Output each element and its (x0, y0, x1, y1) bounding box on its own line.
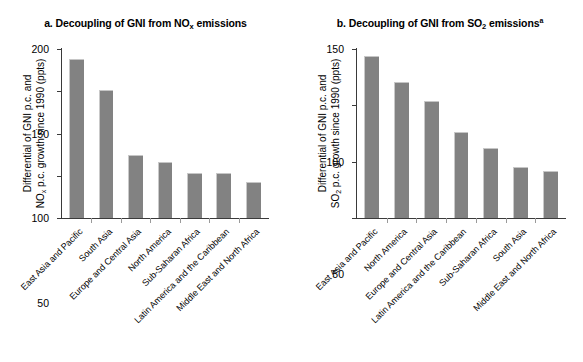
panel-b-plot-area: 050100150 (357, 49, 565, 218)
x-separator-tick (91, 218, 92, 223)
bar-slot (209, 49, 238, 218)
bar[interactable] (69, 59, 84, 218)
y-tick-label: 50 (37, 297, 49, 308)
y-tick-label: 50 (332, 269, 344, 280)
bar-slot (416, 49, 446, 218)
x-separator-tick (446, 218, 447, 223)
panel-b-title-suffix: emissions (486, 17, 539, 29)
x-category-label: North America (126, 226, 173, 273)
panel-b-bars (357, 49, 565, 218)
x-separator-tick (239, 218, 240, 223)
panel-a-y-axis-title-subscript: x (40, 190, 47, 194)
panel-b-y-axis-title: Differential of GNI p.c. and SO2 p.c. gr… (317, 49, 345, 218)
bar-slot (121, 49, 150, 218)
x-separator-tick (506, 218, 507, 223)
x-separator-tick (535, 218, 536, 223)
x-separator-tick (416, 218, 417, 223)
x-category-label: Middle East and North Africa (471, 226, 558, 313)
x-category-label: Sub-Saharan Africa (437, 226, 499, 288)
x-category-label: Europe and Central Asia (364, 226, 439, 301)
x-category-label: North America (362, 226, 409, 273)
panel-b-so2: b. Decoupling of GNI from SO2 emissionsa… (291, 0, 583, 362)
panel-a-bars (62, 49, 268, 218)
x-category-label: South Asia (491, 226, 528, 263)
panel-b-title-footnote-marker: a (539, 17, 543, 24)
y-tick-label: 100 (326, 156, 344, 167)
y-tick-label: 200 (31, 44, 49, 55)
y-tick-mark: 0 (57, 218, 62, 219)
bar[interactable] (483, 148, 498, 218)
bar[interactable] (454, 132, 469, 218)
x-separator-tick (387, 218, 388, 223)
bar-slot (62, 49, 91, 218)
x-category-label: Latin America and the Caribbean (370, 226, 469, 325)
figure-two-panel-bar-charts: a. Decoupling of GNI from NOx emissions … (0, 0, 583, 362)
bar-slot (446, 49, 476, 218)
bar-slot (239, 49, 268, 218)
panel-a-plot-area: 050100150200 (62, 49, 268, 218)
bar-slot (91, 49, 120, 218)
x-separator-tick (150, 218, 151, 223)
panel-a-title-suffix: emissions (194, 17, 247, 29)
panel-a-nox: a. Decoupling of GNI from NOx emissions … (0, 0, 291, 362)
panel-b-title: b. Decoupling of GNI from SO2 emissionsa (291, 17, 583, 31)
x-separator-tick (476, 218, 477, 223)
bar-slot (180, 49, 209, 218)
bar[interactable] (543, 171, 558, 218)
y-tick-label: 150 (326, 44, 344, 55)
panel-a-y-axis-title-line2-suffix: p.c. growth since 1990 (ppts) (35, 59, 46, 190)
panel-b-title-prefix: b. Decoupling of GNI from SO (337, 17, 482, 29)
x-category-label: Latin America and the Caribbean (133, 226, 232, 325)
bar[interactable] (128, 155, 143, 218)
x-category-label: Europe and Central Asia (68, 226, 143, 301)
panel-b-y-axis-title-line1: Differential of GNI p.c. and (317, 49, 330, 218)
x-category-label: East Asia and Pacific (18, 226, 84, 292)
panel-a-title-prefix: a. Decoupling of GNI from NO (44, 17, 189, 29)
panel-b-y-axis-title-line2-suffix: p.c. growth since 1990 (ppts) (330, 59, 341, 190)
x-separator-tick (209, 218, 210, 223)
x-category-label: Middle East and North Africa (174, 226, 261, 313)
bar-slot (535, 49, 565, 218)
bar-slot (506, 49, 536, 218)
bar[interactable] (158, 162, 173, 218)
x-separator-tick (180, 218, 181, 223)
y-tick-label: 150 (31, 128, 49, 139)
bar[interactable] (513, 167, 528, 218)
bar[interactable] (424, 101, 439, 218)
bar[interactable] (246, 182, 261, 218)
bar[interactable] (99, 90, 114, 218)
y-tick-mark: 0 (352, 218, 357, 219)
bar-slot (387, 49, 417, 218)
panel-b-y-axis-title-subscript: 2 (335, 190, 342, 194)
panel-a-y-axis-title-line2-prefix: NO (35, 193, 46, 208)
bar[interactable] (364, 56, 379, 218)
x-category-label: Sub-Saharan Africa (140, 226, 202, 288)
bar[interactable] (216, 173, 231, 218)
panel-a-title: a. Decoupling of GNI from NOx emissions (0, 17, 291, 31)
bar-slot (150, 49, 179, 218)
bar[interactable] (187, 173, 202, 218)
panel-b-y-axis-title-line2-prefix: SO (330, 194, 341, 208)
x-category-label: East Asia and Pacific (314, 226, 380, 292)
y-tick-label: 100 (31, 213, 49, 224)
x-category-label: South Asia (77, 226, 114, 263)
panel-b-y-axis-title-line2: SO2 p.c. growth since 1990 (ppts) (330, 49, 346, 218)
bar-slot (357, 49, 387, 218)
bar-slot (476, 49, 506, 218)
bar[interactable] (394, 82, 409, 218)
x-separator-tick (121, 218, 122, 223)
